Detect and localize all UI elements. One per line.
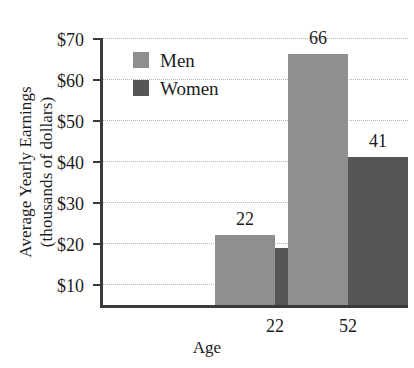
- y-axis-tick-label: $50: [57, 112, 84, 133]
- bar-chart: Average Yearly Earnings (thousands of do…: [0, 0, 414, 368]
- y-axis-tick: $10: [93, 284, 101, 286]
- gridline: [103, 120, 408, 121]
- legend-label-women: Women: [160, 79, 219, 98]
- plot-area: $10$20$30$40$50$60$70 22196641 2252 Men …: [100, 38, 408, 308]
- y-axis-tick: $30: [93, 202, 101, 204]
- y-axis-title: Average Yearly Earnings (thousands of do…: [15, 32, 57, 312]
- y-axis-tick-label: $10: [57, 276, 84, 297]
- bar-value-label: 22: [236, 209, 254, 230]
- legend: Men Women: [133, 46, 219, 102]
- y-axis-title-line-2: (thousands of dollars): [36, 32, 57, 312]
- y-axis-tick: $70: [93, 38, 101, 40]
- bar-men-age-52: [288, 54, 348, 305]
- y-axis-title-line-1: Average Yearly Earnings: [15, 32, 36, 312]
- y-axis-tick-label: $60: [57, 71, 84, 92]
- x-axis-line: [100, 305, 408, 308]
- legend-swatch-men-icon: [133, 52, 149, 68]
- bar-value-label: 41: [369, 131, 387, 152]
- y-axis-tick: $20: [93, 243, 101, 245]
- legend-swatch-women-icon: [133, 80, 149, 96]
- x-axis-title: Age: [0, 338, 414, 358]
- bar-value-label: 66: [309, 28, 327, 49]
- y-axis-tick-label: $30: [57, 194, 84, 215]
- y-axis-tick-label: $40: [57, 153, 84, 174]
- y-axis-tick: $60: [93, 79, 101, 81]
- bar-men-age-22: [215, 235, 275, 305]
- legend-item-women: Women: [133, 74, 219, 102]
- legend-label-men: Men: [160, 51, 195, 70]
- y-axis-tick-label: $20: [57, 235, 84, 256]
- bar-women-age-52: [348, 157, 408, 305]
- x-axis-category-label: 22: [266, 316, 284, 337]
- x-axis-category-label: 52: [339, 316, 357, 337]
- y-axis-tick-label: $70: [57, 30, 84, 51]
- y-axis-tick: $40: [93, 161, 101, 163]
- gridline: [103, 38, 408, 39]
- y-axis-tick: $50: [93, 120, 101, 122]
- legend-item-men: Men: [133, 46, 219, 74]
